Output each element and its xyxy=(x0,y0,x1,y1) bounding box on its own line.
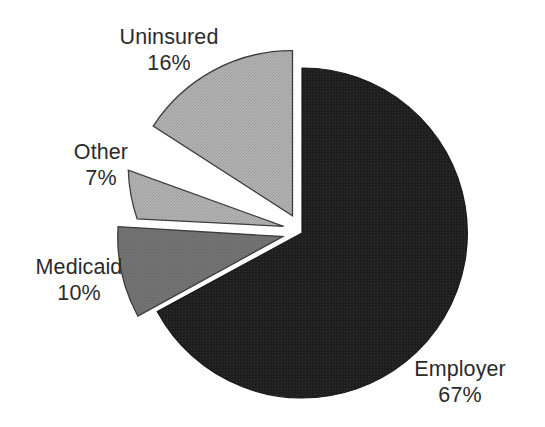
pie-chart: Uninsured 16% Other 7% Medicaid 10% Empl… xyxy=(0,0,545,427)
slice-label-employer-name: Employer xyxy=(404,356,516,382)
slice-label-uninsured-name: Uninsured xyxy=(112,24,226,50)
slice-label-employer-percent: 67% xyxy=(404,382,516,408)
slice-label-medicaid-percent: 10% xyxy=(18,280,140,306)
slice-label-uninsured: Uninsured 16% xyxy=(112,24,226,76)
slice-label-medicaid-name: Medicaid xyxy=(18,254,140,280)
slice-label-employer: Employer 67% xyxy=(404,356,516,408)
slice-label-medicaid: Medicaid 10% xyxy=(18,254,140,306)
slice-label-other: Other 7% xyxy=(58,139,144,191)
slice-label-other-name: Other xyxy=(58,139,144,165)
slice-label-other-percent: 7% xyxy=(58,165,144,191)
slice-label-uninsured-percent: 16% xyxy=(112,50,226,76)
